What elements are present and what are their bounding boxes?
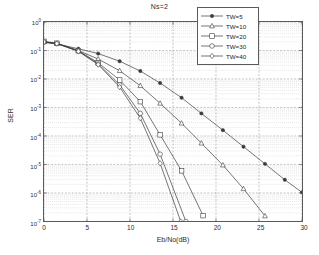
data-point-marker [283,178,286,181]
series-line [44,42,186,222]
data-point-marker [158,81,161,84]
data-point-marker [179,219,183,222]
data-point-marker [138,99,143,104]
y-axis-tick-label: 10-3 [30,104,41,112]
x-axis-tick-label: 10 [127,224,134,231]
data-point-marker [158,161,162,166]
data-point-marker [117,68,122,72]
figure: Ns=2 SER Eb/No(dB) 10010-110-210-310-410… [0,0,319,255]
data-point-marker [263,162,266,165]
legend: TW=5TW=10TW=20TW=30TW=40 [197,7,259,65]
data-point-marker [139,69,142,72]
legend-marker-icon [200,11,224,21]
series-tw40 [44,39,183,221]
x-axis-tick-label: 20 [214,224,221,231]
data-point-marker [117,78,122,83]
series-line [44,42,181,222]
data-point-marker [158,133,163,138]
series-line [44,43,302,193]
chart-title: Ns=2 [0,3,319,10]
y-axis-tick-label: 100 [32,18,41,26]
data-point-marker [179,169,184,174]
legend-marker-icon [200,21,224,31]
series-tw30 [44,40,188,222]
y-axis-tick-label: 10-5 [30,162,41,170]
data-point-marker [138,111,143,116]
data-point-marker [210,34,215,39]
data-point-marker [300,191,302,194]
data-point-marker [96,52,99,55]
data-point-marker [118,60,121,63]
legend-marker-icon [200,31,224,41]
legend-item-tw10[interactable]: TW=10 [200,21,255,31]
series-tw5 [44,41,302,194]
legend-label: TW=40 [226,53,246,60]
x-axis-label: Eb/No(dB) [43,236,303,243]
data-point-marker [210,53,214,58]
data-point-marker [184,219,189,221]
data-point-marker [242,145,245,148]
y-axis-tick-label: 10-6 [30,190,41,198]
series-line [44,42,265,216]
legend-label: TW=20 [226,33,246,40]
data-point-marker [200,112,203,115]
x-axis-tick-label: 0 [42,224,46,231]
data-point-marker [210,23,215,27]
y-axis-tick-label: 10-1 [30,47,41,55]
y-axis-label: SER [7,96,14,136]
data-point-marker [158,152,163,157]
data-point-marker [210,44,215,49]
legend-item-tw20[interactable]: TW=20 [200,31,255,41]
data-point-marker [180,96,183,99]
data-point-marker [221,128,224,131]
data-point-marker [201,213,206,218]
legend-marker-icon [200,51,224,61]
x-axis-tick-label: 15 [170,224,177,231]
y-axis-tick-label: 10-4 [30,133,41,141]
legend-item-tw30[interactable]: TW=30 [200,41,255,51]
x-axis-tick-label: 30 [300,224,307,231]
series-tw20 [44,39,205,218]
data-point-marker [138,83,143,87]
legend-item-tw40[interactable]: TW=40 [200,51,255,61]
series-line [44,41,203,215]
legend-label: TW=30 [226,43,246,50]
legend-item-tw5[interactable]: TW=5 [200,11,255,21]
data-point-marker [210,14,213,17]
legend-label: TW=10 [226,23,246,30]
y-axis-tick-label: 10-7 [30,219,41,227]
y-axis-tick-label: 10-2 [30,75,41,83]
series-tw10 [44,39,267,218]
legend-marker-icon [200,41,224,51]
legend-label: TW=5 [226,13,243,20]
x-axis-tick-label: 5 [86,224,90,231]
plot-area: 10010-110-210-310-410-510-610-7051015202… [43,21,303,222]
data-curves [44,22,302,221]
x-axis-tick-label: 25 [257,224,264,231]
